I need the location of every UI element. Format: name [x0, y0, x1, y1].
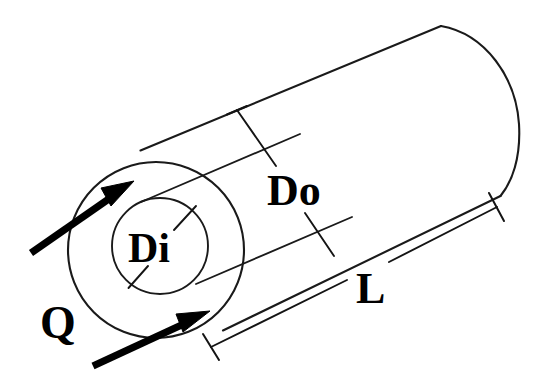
bore-wall-lower-line: [196, 217, 352, 284]
label-length-l: L: [356, 264, 385, 313]
cylinder-top-edge: [141, 26, 442, 151]
tube-diagram-canvas: Q Di Do L: [0, 0, 542, 391]
heat-flow-arrow-lower: [93, 311, 210, 366]
heat-flow-arrow-lower-shaft: [93, 322, 188, 366]
di-dimension-line-upper: [174, 206, 196, 230]
l-dimension-line-left: [211, 280, 347, 347]
label-heat-flow-q: Q: [40, 297, 76, 348]
tube-diagram-figure: Q Di Do L: [0, 0, 542, 391]
label-outer-diameter-do: Do: [267, 166, 321, 215]
cylinder-far-end-cap: [441, 26, 519, 196]
heat-flow-arrow-upper-shaft: [31, 196, 113, 253]
label-inner-diameter-di: Di: [128, 225, 170, 271]
heat-flow-arrow-upper: [31, 181, 134, 253]
l-dimension-line-right: [389, 207, 497, 262]
